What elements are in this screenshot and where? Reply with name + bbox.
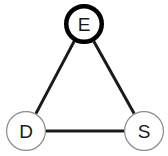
edge-layer [36,41,134,131]
node-S-label: S [138,121,151,142]
node-E[interactable]: E [66,6,102,42]
graph-diagram-canvas: E D S [0,0,168,156]
node-E-label: E [78,14,91,35]
node-D[interactable]: D [7,112,46,151]
graph-svg: E D S [0,0,168,156]
edge-E-D[interactable] [36,41,74,113]
node-layer: E D S [7,6,164,150]
node-D-label: D [19,121,33,142]
node-S[interactable]: S [125,112,164,151]
edge-E-S[interactable] [94,41,134,113]
